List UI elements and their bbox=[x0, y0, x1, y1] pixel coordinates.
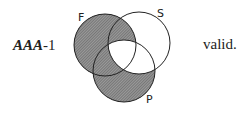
label-f: F bbox=[78, 11, 84, 24]
circle-s bbox=[108, 12, 170, 74]
venn-diagram: F S P bbox=[0, 0, 245, 113]
label-s: S bbox=[157, 7, 164, 20]
label-p: P bbox=[146, 93, 153, 106]
